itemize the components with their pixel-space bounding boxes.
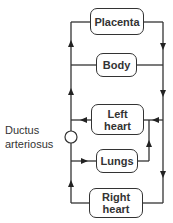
ductus-label-line2: arteriosus (5, 137, 53, 151)
left-heart-node: Left heart (91, 104, 144, 135)
ductus-valve-icon (65, 131, 77, 143)
left-heart-label-2: heart (104, 120, 131, 132)
placenta-label: Placenta (94, 16, 139, 28)
right-heart-label-2: heart (103, 203, 130, 215)
body-label: Body (103, 59, 131, 71)
body-node: Body (96, 53, 137, 77)
left-heart-label-1: Left (107, 108, 127, 120)
right-heart-label-1: Right (102, 191, 130, 203)
ductus-arteriosus-label: Ductus arteriosus (5, 123, 53, 151)
placenta-node: Placenta (90, 8, 144, 35)
connector-lines (0, 0, 173, 223)
lungs-label: Lungs (101, 155, 134, 167)
ductus-label-line1: Ductus (5, 123, 53, 137)
lungs-node: Lungs (96, 149, 138, 173)
right-heart-node: Right heart (89, 188, 143, 218)
fetal-circulation-diagram: Placenta Body Left heart Lungs Right hea… (0, 0, 173, 223)
